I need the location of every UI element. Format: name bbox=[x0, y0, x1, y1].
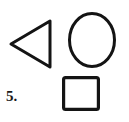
item-number-label: 5. bbox=[6, 88, 17, 104]
worksheet-item-figure: 5. bbox=[0, 0, 129, 122]
square-shape bbox=[64, 78, 99, 110]
triangle-shape bbox=[11, 21, 50, 67]
circle-shape bbox=[70, 14, 115, 67]
shapes-figure bbox=[0, 0, 129, 122]
